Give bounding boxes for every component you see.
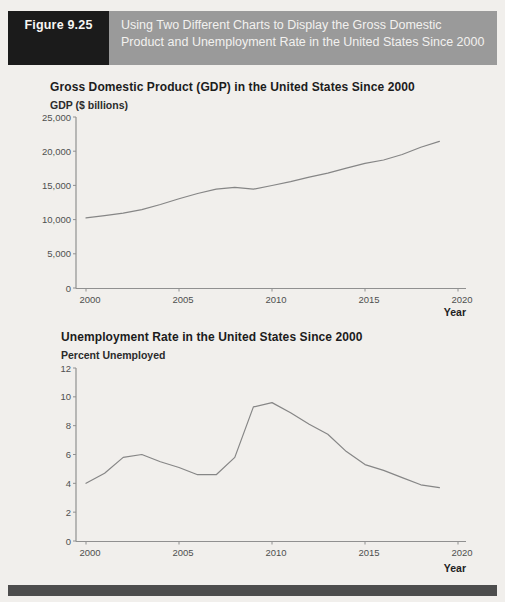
figure-number-label: Figure 9.25: [8, 11, 109, 65]
textbook-figure-page: Figure 9.25 Using Two Different Charts t…: [0, 0, 505, 602]
y-tick-label: 15,000: [42, 180, 71, 191]
x-tick-label: 2015: [358, 547, 379, 558]
y-tick-label: 4: [66, 478, 71, 489]
x-tick-label: 2020: [451, 294, 472, 305]
y-tick-label: 25,000: [42, 112, 71, 123]
unemployment-chart-title: Unemployment Rate in the United States S…: [61, 330, 363, 344]
figure-caption: Using Two Different Charts to Display th…: [109, 11, 497, 65]
y-tick-label: 0: [66, 536, 71, 547]
y-tick-label: 2: [66, 507, 71, 518]
unemployment-data-line: [86, 403, 439, 488]
x-tick-label: 2010: [265, 547, 286, 558]
y-tick-label: 0: [66, 283, 71, 294]
y-tick-label: 5,000: [47, 248, 71, 259]
x-axis-title: Year: [444, 306, 466, 318]
gdp-data-line: [86, 141, 439, 218]
x-axis-title: Year: [444, 562, 466, 574]
x-tick-label: 2010: [265, 294, 286, 305]
y-tick-label: 10,000: [42, 214, 71, 225]
x-tick-label: 2020: [451, 547, 472, 558]
x-tick-label: 2005: [172, 547, 193, 558]
x-tick-label: 2015: [358, 294, 379, 305]
y-tick-label: 8: [66, 420, 71, 431]
x-tick-label: 2000: [79, 294, 100, 305]
gdp-chart-title: Gross Domestic Product (GDP) in the Unit…: [50, 80, 415, 94]
gdp-line-chart: 05,00010,00015,00020,00025,0002000200520…: [0, 105, 505, 320]
footer-bar: [8, 585, 497, 596]
y-tick-label: 12: [60, 363, 71, 374]
x-tick-label: 2000: [79, 547, 100, 558]
y-tick-label: 6: [66, 449, 71, 460]
figure-header: Figure 9.25 Using Two Different Charts t…: [8, 11, 497, 65]
unemployment-line-chart: 02468101220002005201020152020Year: [0, 358, 505, 576]
y-tick-label: 20,000: [42, 146, 71, 157]
x-tick-label: 2005: [172, 294, 193, 305]
y-tick-label: 10: [60, 391, 71, 402]
